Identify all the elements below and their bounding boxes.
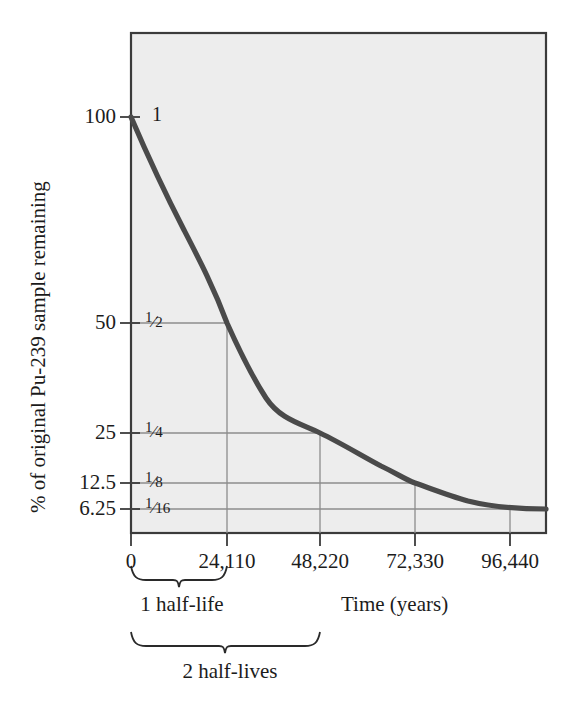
y-tick-label-12-5: 12.5 xyxy=(48,472,116,493)
brace-label-2-half-lives: 2 half-lives xyxy=(155,661,305,682)
fraction-denominator: 2 xyxy=(155,314,163,330)
fraction-numerator: 1 xyxy=(145,309,153,325)
fraction-label-1-2: 1⁄2 xyxy=(145,310,163,330)
brace-2-half-lives xyxy=(131,632,320,653)
decay-chart-figure: % of original Pu-239 sample remaining 10… xyxy=(0,0,582,707)
x-tick-marks xyxy=(131,533,510,546)
plot-background xyxy=(131,33,546,533)
x-tick-label-72330: 72,330 xyxy=(365,551,465,572)
x-tick-label-96440: 96,440 xyxy=(460,551,560,572)
fraction-denominator: 16 xyxy=(155,500,170,516)
y-tick-label-6-25: 6.25 xyxy=(48,498,116,519)
y-tick-label-100: 100 xyxy=(58,106,116,127)
fraction-numerator: 1 xyxy=(145,495,153,511)
x-tick-label-48220: 48,220 xyxy=(270,551,370,572)
x-tick-label-24110: 24,110 xyxy=(177,551,277,572)
fraction-label-1-16: 1⁄16 xyxy=(145,496,170,516)
fraction-label-1-4: 1⁄4 xyxy=(145,420,163,440)
y-tick-label-25: 25 xyxy=(58,422,116,443)
brace-label-1-half-life: 1 half-life xyxy=(122,594,242,615)
fraction-label-1: 1 xyxy=(152,104,162,124)
fraction-denominator: 8 xyxy=(155,474,163,490)
fraction-numerator: 1 xyxy=(145,469,153,485)
fraction-numerator: 1 xyxy=(145,419,153,435)
y-tick-label-50: 50 xyxy=(58,312,116,333)
x-tick-label-0: 0 xyxy=(101,551,161,572)
fraction-label-1-8: 1⁄8 xyxy=(145,470,163,490)
y-axis-title: % of original Pu-239 sample remaining xyxy=(26,181,51,513)
x-axis-title: Time (years) xyxy=(341,594,448,615)
fraction-denominator: 4 xyxy=(155,424,163,440)
